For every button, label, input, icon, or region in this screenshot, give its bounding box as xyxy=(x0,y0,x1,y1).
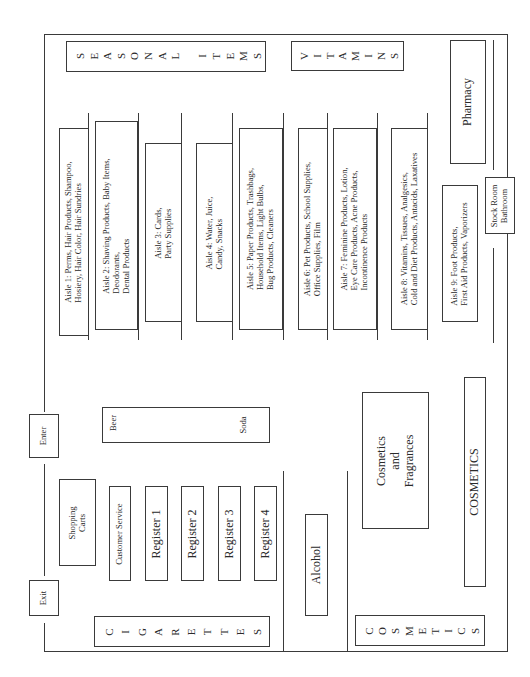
letter: T xyxy=(210,49,222,63)
letter: S xyxy=(388,50,400,63)
wall-top xyxy=(44,34,508,35)
letter: M xyxy=(402,624,414,637)
cosmetics-fragrances: Cosmetics and Fragrances xyxy=(362,392,429,529)
letter: M xyxy=(237,49,249,63)
aisle-line: Cold and Diet Products, Antacids, Laxati… xyxy=(410,153,420,306)
letter: T xyxy=(218,624,230,640)
letter: O xyxy=(376,624,388,637)
register-4: Register 4 xyxy=(254,486,277,581)
aisle-line: Aisle 8: Vitamins, Tissues, Analgesics, xyxy=(400,153,410,306)
register-1: Register 1 xyxy=(145,486,168,581)
aisle-7-label: Aisle 7: Feminine Products, Lotion, Eye … xyxy=(340,167,370,290)
shopping-carts: Shopping Carts xyxy=(59,479,96,566)
seasonal-items-section: SEASONAL ITEMS xyxy=(66,41,266,72)
wall-left-lower xyxy=(44,623,45,651)
letter: T xyxy=(324,50,336,63)
aisle-2-label: Aisle 2: Shaving Products, Baby Items, D… xyxy=(102,158,132,293)
cigarettes-label: CIGARETTES xyxy=(101,626,265,638)
alcohol-label: Alcohol xyxy=(310,546,324,585)
letter: I xyxy=(311,50,323,63)
letter: C xyxy=(455,624,467,637)
shopping-carts-line: Shopping xyxy=(68,506,78,539)
wall-bottom xyxy=(44,651,508,652)
cf-line: Fragrances xyxy=(402,434,416,487)
aisle-2: Aisle 2: Shaving Products, Baby Items, D… xyxy=(95,121,138,330)
letter: E xyxy=(415,624,427,637)
aisle-7: Aisle 7: Feminine Products, Lotion, Eye … xyxy=(333,128,377,330)
wall-left-upper xyxy=(44,34,45,412)
beer-label: Beer xyxy=(108,415,118,431)
wall-right xyxy=(507,34,508,651)
aisle-line: Aisle 3: Cards, xyxy=(154,207,164,258)
register-1-label: Register 1 xyxy=(150,509,164,558)
customer-service-label: Customer Service xyxy=(115,503,125,564)
letter: A xyxy=(152,624,164,640)
letter: I xyxy=(442,624,454,637)
pharmacy-partition-upper xyxy=(493,40,494,170)
letter: N xyxy=(142,49,154,63)
letter: I xyxy=(362,50,374,63)
aisle-3-label: Aisle 3: Cards, Party Supplies xyxy=(154,207,174,258)
cosmetics-fragrances-label: Cosmetics and Fragrances xyxy=(375,434,416,487)
customer-service: Customer Service xyxy=(109,486,131,581)
letter: O xyxy=(128,49,140,63)
letter: I xyxy=(120,624,132,640)
cosmetics-wall-section: COSMETICS xyxy=(355,615,485,646)
stock-room-bathroom: Stock Room Bathroom xyxy=(485,177,515,234)
cosmetics-counter-label: COSMETICS xyxy=(468,448,482,515)
register-3: Register 3 xyxy=(218,486,241,581)
aisle-line: Office Supplies, Film xyxy=(313,162,323,296)
shopping-carts-line: Carts xyxy=(78,506,88,539)
aisle-9-label: Aisle 9: Foot Products, First Aid Produc… xyxy=(450,202,470,305)
vitamins-section: VITAMINS xyxy=(291,41,404,71)
letter: S xyxy=(251,624,263,640)
letter: S xyxy=(389,624,401,637)
aisle-6: Aisle 6: Pet Products, School Supplies, … xyxy=(298,128,328,330)
aisle-line: First Aid Products, Vaporizers xyxy=(460,202,470,305)
aisle-4-label: Aisle 4: Water, Juice, Candy, Snacks xyxy=(205,196,225,269)
shopping-carts-label: Shopping Carts xyxy=(68,506,88,539)
letter: E xyxy=(223,49,235,63)
aisle-8-label: Aisle 8: Vitamins, Tissues, Analgesics, … xyxy=(400,153,420,306)
cf-line: and xyxy=(389,434,403,487)
aisle-divider xyxy=(377,113,378,340)
letter: N xyxy=(375,50,387,63)
letter: M xyxy=(350,50,362,63)
aisle-line: Party Supplies xyxy=(164,207,174,258)
alcohol-section: Alcohol xyxy=(305,514,328,616)
aisle-8: Aisle 8: Vitamins, Tissues, Analgesics, … xyxy=(391,128,428,330)
letter: L xyxy=(169,49,181,63)
aisle-5-label: Aisle 5: Paper Products, Trashbags, Hous… xyxy=(246,168,276,290)
aisle-line: Bug Products, Cleaners xyxy=(266,168,276,290)
aisle-line: Deodorants, xyxy=(112,158,122,293)
wall-left-middle xyxy=(44,464,45,576)
letter: A xyxy=(101,49,113,63)
front-divider-right xyxy=(347,471,348,651)
aisle-divider xyxy=(283,113,284,340)
aisle-9: Aisle 9: Foot Products, First Aid Produc… xyxy=(442,185,478,322)
bathroom-text: Bathroom xyxy=(500,184,510,227)
cf-line: Cosmetics xyxy=(375,434,389,487)
seasonal-items-label: SEASONAL ITEMS xyxy=(73,50,263,62)
pharmacy-label: Pharmacy xyxy=(461,78,475,126)
aisle-line: Aisle 2: Shaving Products, Baby Items, xyxy=(102,158,112,293)
letter: R xyxy=(169,624,181,640)
aisle-4: Aisle 4: Water, Juice, Candy, Snacks xyxy=(196,143,233,322)
letter: A xyxy=(155,49,167,63)
front-divider-left xyxy=(283,471,284,651)
letter: T xyxy=(429,624,441,637)
letter: S xyxy=(115,49,127,63)
register-2: Register 2 xyxy=(181,486,204,581)
letter: E xyxy=(185,624,197,640)
aisle-1: Aisle 1: Perms, Hair Products, Shampoo, … xyxy=(59,128,89,336)
vitamins-label: VITAMINS xyxy=(298,50,400,62)
letter: S xyxy=(468,624,480,637)
aisle-line: Incontinence Products xyxy=(360,167,370,290)
letter: C xyxy=(103,624,115,640)
letter: S xyxy=(251,49,263,63)
enter-label: Enter xyxy=(39,427,49,446)
exit-door: Exit xyxy=(29,580,59,616)
letter: E xyxy=(234,624,246,640)
soda-label: Soda xyxy=(238,416,248,433)
pharmacy-section: Pharmacy xyxy=(450,40,486,164)
